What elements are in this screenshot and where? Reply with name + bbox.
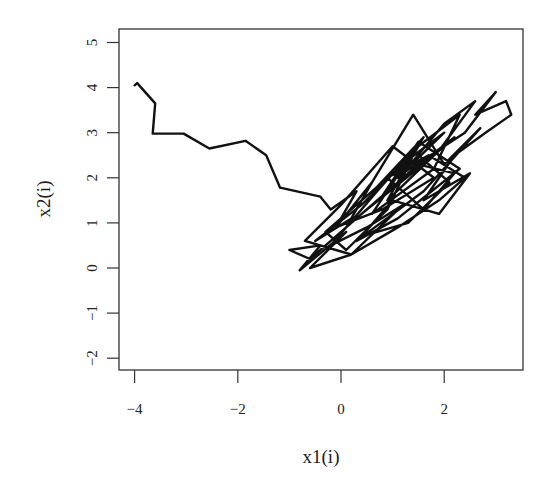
x-tick-label: −4: [127, 401, 143, 417]
x-tick-label: −2: [230, 401, 246, 417]
y-axis-title: x2(i): [33, 181, 55, 218]
y-tick-label: 0: [84, 264, 100, 272]
x-axis: −4−202: [127, 370, 448, 417]
plot-frame: [119, 29, 523, 370]
y-tick-label: −2: [84, 350, 100, 366]
y-tick-label: 5: [84, 39, 100, 47]
y-tick-label: 3: [84, 129, 100, 137]
line-chart: −4−202 −2−1012345 x1(i) x2(i): [0, 0, 551, 485]
y-tick-label: 1: [84, 219, 100, 227]
y-tick-label: 4: [84, 83, 100, 91]
y-axis: −2−1012345: [84, 39, 119, 366]
y-tick-label: 2: [84, 174, 100, 182]
x-tick-label: 0: [337, 401, 345, 417]
x-tick-label: 2: [440, 401, 448, 417]
data-line: [135, 83, 512, 270]
x-axis-title: x1(i): [303, 446, 340, 468]
y-tick-label: −1: [84, 305, 100, 321]
